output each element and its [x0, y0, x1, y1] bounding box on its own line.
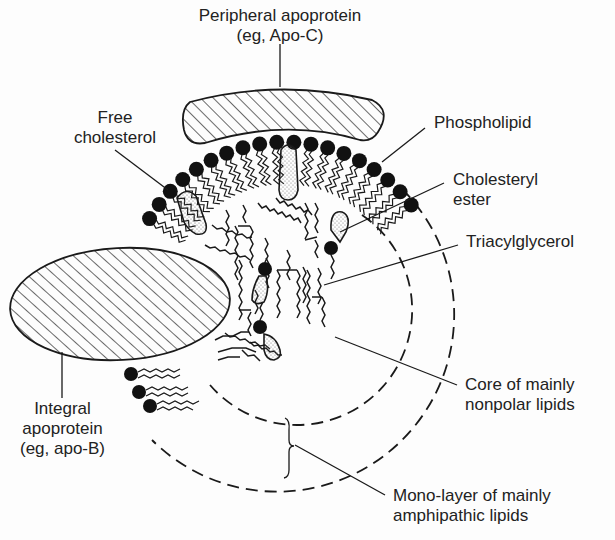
integral-apoprotein-label: Integral apoprotein (eg, apo-B) [5, 399, 120, 459]
free-cholesterol-label: Free cholesterol [60, 108, 170, 148]
inner-core-boundary [210, 215, 412, 425]
peripheral-apoprotein-shape [183, 89, 384, 143]
label-line: (eg, apo-B) [5, 439, 120, 459]
label-line: Free [60, 108, 170, 128]
triacylglycerol-label: Triacylglycerol [466, 232, 574, 252]
label-line: (eg, Apo-C) [180, 26, 380, 46]
monolayer-brace [284, 418, 294, 478]
lipoprotein-diagram: Peripheral apoprotein (eg, Apo-C) Free c… [0, 0, 615, 540]
triacylglycerol-leader [324, 245, 458, 285]
monolayer-label: Mono-layer of mainly amphipathic lipids [393, 486, 551, 526]
label-line: Triacylglycerol [466, 232, 574, 252]
core-label: Core of mainly nonpolar lipids [465, 375, 575, 415]
label-line: Core of mainly [465, 375, 575, 395]
core-leader [335, 337, 457, 385]
label-line: apoprotein [5, 419, 120, 439]
label-line: Phospholipid [434, 113, 531, 133]
label-line: nonpolar lipids [465, 395, 575, 415]
monolayer-leader [295, 445, 385, 495]
integral-apoprotein-shape [7, 242, 233, 365]
label-line: Cholesteryl [453, 170, 538, 190]
lower-phospholipid-heads [124, 367, 199, 413]
label-line: amphipathic lipids [393, 506, 551, 526]
phospholipid-leader [382, 128, 425, 162]
label-line: Integral [5, 399, 120, 419]
cholesteryl-ester-molecules [252, 212, 348, 360]
label-line: ester [453, 190, 538, 210]
free-cholesterol-leader [115, 150, 168, 190]
free-cholesterol-molecule [177, 145, 298, 234]
cholesteryl-ester-label: Cholesteryl ester [453, 170, 538, 210]
label-line: Mono-layer of mainly [393, 486, 551, 506]
diagram-canvas [0, 0, 615, 540]
label-line: Peripheral apoprotein [180, 6, 380, 26]
phospholipid-label: Phospholipid [434, 113, 531, 133]
peripheral-apoprotein-label: Peripheral apoprotein (eg, Apo-C) [180, 6, 380, 46]
label-line: cholesterol [60, 128, 170, 148]
